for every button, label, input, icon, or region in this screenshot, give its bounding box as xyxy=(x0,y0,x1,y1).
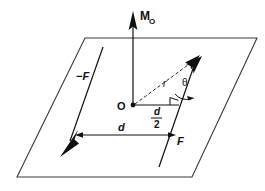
distance-d-right-arrowhead xyxy=(168,132,176,138)
moment-couple-diagram: M O O F −F d d 2 r θ xyxy=(0,0,265,191)
distance-d-label: d xyxy=(118,121,125,133)
half-distance-denominator-label: 2 xyxy=(154,119,160,130)
position-vector-label: r xyxy=(163,78,167,89)
force-line-of-action-positive xyxy=(159,60,196,167)
force-positive-label: F xyxy=(177,135,184,147)
angle-theta-arc-arrowhead xyxy=(187,96,195,101)
negative-force-vector-arrowhead xyxy=(60,130,79,157)
moment-subscript-label: O xyxy=(149,17,155,26)
origin-label: O xyxy=(117,100,126,112)
right-angle-marker xyxy=(170,98,178,106)
half-distance-numerator-label: d xyxy=(154,106,161,117)
force-negative-label: −F xyxy=(76,70,89,82)
reference-plane xyxy=(17,38,257,177)
force-line-of-action-negative xyxy=(70,47,103,141)
angle-theta-label: θ xyxy=(182,77,188,88)
diagram-canvas: M O O F −F d d 2 r θ xyxy=(0,0,265,191)
